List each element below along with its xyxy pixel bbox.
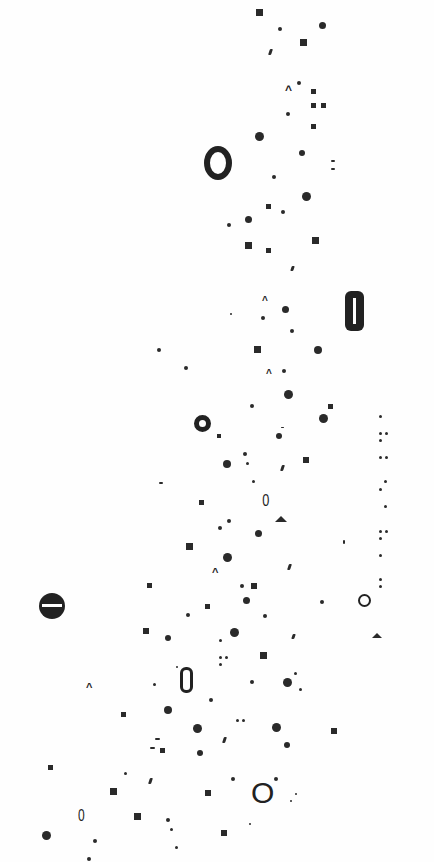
dot-mark — [230, 313, 232, 315]
dot-mark — [282, 306, 289, 313]
dash-mark — [159, 482, 163, 484]
zero-glyph: 0 — [78, 808, 85, 824]
dot-mark — [379, 432, 382, 435]
dot-mark — [274, 777, 278, 781]
slash-mark — [280, 465, 285, 471]
dot-mark — [227, 223, 231, 227]
dot-mark — [219, 656, 222, 659]
dot-mark — [282, 369, 286, 373]
slash-mark — [268, 49, 273, 55]
dot-mark — [236, 719, 239, 722]
dot-mark — [379, 456, 382, 459]
dot-mark — [286, 112, 290, 116]
square-mark — [303, 457, 309, 463]
square-mark — [300, 39, 307, 46]
square-mark — [256, 9, 263, 16]
dash-mark — [155, 738, 160, 740]
dot-mark — [299, 688, 302, 691]
caret-glyph: ^ — [212, 567, 218, 578]
zero-glyph: 0 — [262, 492, 269, 509]
dot-mark — [165, 635, 171, 641]
disc-bar — [42, 604, 62, 607]
square-mark — [186, 543, 193, 550]
dot-mark — [230, 628, 239, 637]
dot-mark — [240, 584, 244, 588]
square-mark — [266, 204, 271, 209]
dot-mark — [379, 488, 382, 491]
dot-mark — [252, 480, 255, 483]
dot-mark — [223, 460, 231, 468]
square-mark — [245, 242, 252, 249]
square-mark — [266, 248, 271, 253]
dot-mark — [302, 192, 311, 201]
caret-glyph: ^ — [285, 84, 292, 96]
square-mark — [311, 89, 316, 94]
caret-glyph: ^ — [262, 296, 268, 306]
dot-mark — [255, 132, 264, 141]
dot-mark — [227, 519, 231, 523]
dot-mark — [218, 526, 222, 530]
slash-mark — [291, 634, 296, 639]
dot-mark — [290, 800, 292, 802]
square-mark — [221, 830, 227, 836]
minus-disc-icon — [39, 593, 65, 619]
dot-mark — [186, 613, 190, 617]
bold-zero-glyph — [204, 146, 232, 180]
dash-mark — [331, 168, 335, 170]
dot-mark — [276, 433, 282, 439]
dot-mark — [281, 210, 285, 214]
dot-mark — [250, 680, 254, 684]
square-mark — [328, 404, 333, 409]
dot-mark — [384, 505, 387, 508]
dot-mark — [379, 578, 382, 581]
dot-mark — [184, 366, 188, 370]
dot-mark — [225, 656, 228, 659]
caret-glyph: ^ — [86, 682, 92, 693]
dot-mark — [231, 777, 235, 781]
dot-mark — [272, 175, 276, 179]
dot-mark — [385, 530, 388, 533]
dot-mark — [379, 530, 382, 533]
dot-mark — [290, 329, 294, 333]
square-mark — [199, 500, 204, 505]
dot-mark — [272, 723, 281, 732]
dot-mark — [379, 537, 382, 540]
dot-mark — [297, 81, 301, 85]
dot-mark — [175, 846, 178, 849]
dot-mark — [385, 456, 388, 459]
pill-icon — [345, 291, 364, 331]
dot-mark — [245, 216, 252, 223]
square-mark — [160, 748, 165, 753]
slot-icon — [180, 667, 193, 693]
dot-mark — [379, 585, 382, 588]
square-mark — [205, 790, 211, 796]
dot-mark — [320, 600, 324, 604]
dot-mark — [314, 346, 322, 354]
dot-mark — [243, 597, 250, 604]
glyph-field: ^^^0^^O0 — [0, 0, 434, 862]
square-mark — [311, 124, 316, 129]
dot-mark — [242, 719, 245, 722]
dot-mark — [166, 818, 170, 822]
dot-mark — [164, 706, 172, 714]
dot-mark — [42, 831, 51, 840]
pill-bar — [353, 298, 356, 324]
dot-mark — [384, 480, 387, 483]
dot-mark — [278, 27, 282, 31]
slash-mark — [148, 778, 153, 784]
dash-mark — [150, 747, 155, 749]
dot-mark — [246, 462, 249, 465]
square-mark — [260, 652, 267, 659]
dot-mark — [219, 639, 222, 642]
dot-mark — [379, 415, 382, 418]
dot-mark — [284, 742, 290, 748]
dot-mark — [294, 672, 297, 675]
dot-mark — [283, 678, 292, 687]
square-mark — [110, 788, 117, 795]
square-mark — [217, 434, 221, 438]
dot-mark — [250, 404, 254, 408]
dot-mark — [209, 698, 213, 702]
dot-mark — [319, 22, 326, 29]
dot-mark — [124, 772, 127, 775]
triangle-icon — [372, 633, 382, 638]
